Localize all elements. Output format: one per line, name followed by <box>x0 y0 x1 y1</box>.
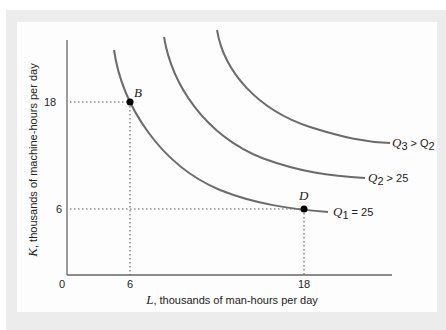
point-d <box>301 206 308 213</box>
isoquant-q2 <box>164 37 365 178</box>
y-tick-6: 6 <box>56 203 62 215</box>
isoquant-q3 <box>217 30 390 143</box>
isoquant-chart: B D 18 6 0 6 18 L, thousands of man-hour… <box>0 0 446 330</box>
y-axis-label: K, thousands of machine-hours per day <box>25 63 40 258</box>
point-d-label: D <box>298 188 309 203</box>
point-b <box>127 99 134 106</box>
isoquant-q1 <box>114 50 328 212</box>
point-b-label: B <box>134 85 142 100</box>
x-tick-0: 0 <box>59 278 65 290</box>
q2-label: Q2 > 25 <box>368 170 408 187</box>
q3-label: Q3 > Q2 <box>392 135 435 152</box>
y-tick-18: 18 <box>44 96 56 108</box>
x-axis-label: L, thousands of man-hours per day <box>145 292 318 307</box>
x-tick-6: 6 <box>127 278 133 290</box>
x-tick-18: 18 <box>298 278 310 290</box>
q1-label: Q1 = 25 <box>333 204 373 221</box>
